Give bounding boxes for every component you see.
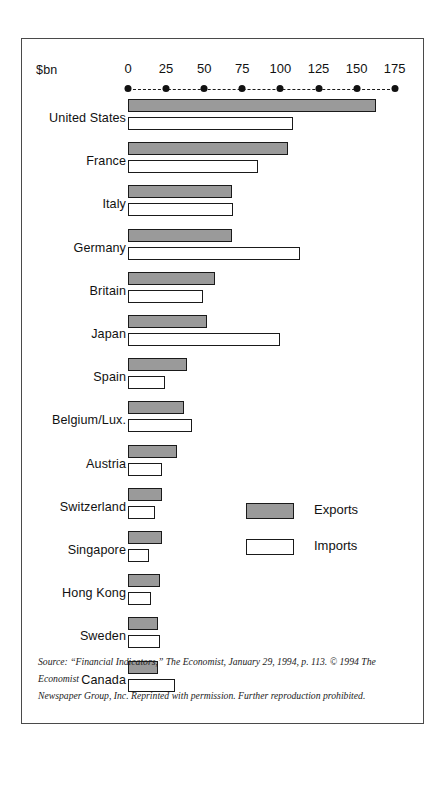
axis-tick-label: 175 <box>384 61 406 76</box>
category-label: Italy <box>22 197 126 211</box>
category-label: Belgium/Lux. <box>22 413 126 427</box>
bar-exports <box>128 574 160 587</box>
category-label: Switzerland <box>22 500 126 514</box>
bar-exports <box>128 315 207 328</box>
category-label: Spain <box>22 370 126 384</box>
chart-row: Belgium/Lux. <box>22 399 423 442</box>
axis-tick-dot-icon <box>391 85 398 92</box>
bar-exports <box>128 617 158 630</box>
category-label: Singapore <box>22 543 126 557</box>
category-label: France <box>22 154 126 168</box>
bar-imports <box>128 290 203 303</box>
chart-row: Austria <box>22 443 423 486</box>
bar-imports <box>128 463 162 476</box>
axis-tick-label: 100 <box>270 61 292 76</box>
bar-exports <box>128 488 162 501</box>
bar-exports <box>128 142 288 155</box>
category-label: Sweden <box>22 629 126 643</box>
source-line-1: Source: “Financial Indicators,” The Econ… <box>38 654 405 688</box>
axis-tick-dot-icon <box>277 85 284 92</box>
bar-imports <box>128 203 233 216</box>
bar-imports <box>128 333 280 346</box>
chart-plot-area: United StatesFranceItalyGermanyBritainJa… <box>22 95 423 639</box>
legend-swatch-exports-icon <box>246 503 294 519</box>
legend-swatch-imports-icon <box>246 539 294 555</box>
source-line-2: Newspaper Group, Inc. Reprinted with per… <box>38 688 405 705</box>
bar-exports <box>128 358 187 371</box>
chart-row: Singapore <box>22 529 423 572</box>
axis-tick-dot-icon <box>315 85 322 92</box>
axis-tick-dot-icon <box>353 85 360 92</box>
category-label: Germany <box>22 241 126 255</box>
category-label: United States <box>22 111 126 125</box>
bar-imports <box>128 635 160 648</box>
chart-row: Switzerland <box>22 486 423 529</box>
bar-imports <box>128 506 155 519</box>
bar-imports <box>128 160 258 173</box>
category-label: Japan <box>22 327 126 341</box>
chart-row: France <box>22 140 423 183</box>
axis-tick-label: 125 <box>308 61 330 76</box>
axis-tick-label: 75 <box>235 61 249 76</box>
chart-row: Germany <box>22 227 423 270</box>
source-caption: Source: “Financial Indicators,” The Econ… <box>38 654 405 705</box>
legend-label-exports: Exports <box>314 502 358 517</box>
chart-row: Italy <box>22 183 423 226</box>
axis-unit-label: $bn <box>36 63 57 77</box>
chart-row: Japan <box>22 313 423 356</box>
bar-exports <box>128 185 232 198</box>
chart-row: United States <box>22 97 423 140</box>
chart-axis: $bn 0255075100125150175 <box>22 39 423 95</box>
axis-tick-label: 150 <box>346 61 368 76</box>
axis-tick-label: 25 <box>159 61 173 76</box>
axis-tick-dot-icon <box>125 85 132 92</box>
axis-tick-dot-icon <box>163 85 170 92</box>
bar-exports <box>128 229 232 242</box>
bar-exports <box>128 272 215 285</box>
chart-row: Hong Kong <box>22 572 423 615</box>
category-label: Britain <box>22 284 126 298</box>
bar-imports <box>128 549 149 562</box>
bar-exports <box>128 445 177 458</box>
bar-imports <box>128 117 293 130</box>
bar-exports <box>128 99 376 112</box>
axis-tick-label: 0 <box>124 61 131 76</box>
bar-imports <box>128 419 192 432</box>
chart-figure: $bn 0255075100125150175 United StatesFra… <box>21 38 424 724</box>
axis-tick-dot-icon <box>201 85 208 92</box>
bar-exports <box>128 531 162 544</box>
chart-row: Sweden <box>22 615 423 658</box>
bar-imports <box>128 376 165 389</box>
category-label: Austria <box>22 457 126 471</box>
axis-tick-dot-icon <box>239 85 246 92</box>
chart-row: Spain <box>22 356 423 399</box>
bar-exports <box>128 401 184 414</box>
bar-imports <box>128 592 151 605</box>
legend-label-imports: Imports <box>314 538 357 553</box>
category-label: Hong Kong <box>22 586 126 600</box>
axis-tick-label: 50 <box>197 61 211 76</box>
chart-row: Britain <box>22 270 423 313</box>
bar-imports <box>128 247 300 260</box>
